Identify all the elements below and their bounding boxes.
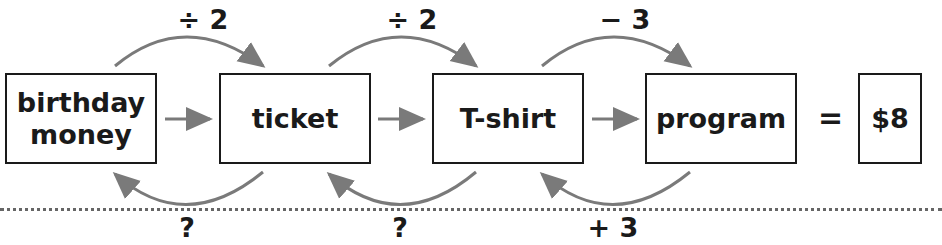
box-birthday-money-line1: birthday [17, 87, 145, 118]
forward-arc-1 [115, 37, 263, 66]
box-result: $8 [858, 73, 922, 164]
box-t-shirt-label: T-shirt [460, 103, 556, 134]
dotted-divider [0, 208, 942, 211]
inverse-arc-1 [115, 172, 263, 205]
forward-op-3: − 3 [600, 4, 651, 35]
inverse-op-3: + 3 [588, 212, 639, 243]
box-program: program [645, 73, 797, 164]
equals-sign: = [818, 100, 843, 135]
box-result-label: $8 [871, 103, 909, 134]
box-t-shirt: T-shirt [432, 73, 584, 164]
forward-op-1: ÷ 2 [178, 4, 229, 35]
inverse-op-2: ? [392, 212, 408, 243]
box-ticket-label: ticket [252, 103, 339, 134]
inverse-arc-2 [329, 172, 476, 205]
box-program-label: program [656, 103, 786, 134]
box-ticket: ticket [219, 73, 371, 164]
forward-arc-3 [542, 37, 690, 66]
inverse-arc-3 [542, 172, 690, 205]
box-birthday-money-line2: money [30, 119, 132, 150]
inverse-op-1: ? [179, 212, 195, 243]
forward-op-2: ÷ 2 [387, 4, 438, 35]
forward-arc-2 [329, 37, 476, 66]
box-birthday-money: birthday money [5, 73, 157, 164]
